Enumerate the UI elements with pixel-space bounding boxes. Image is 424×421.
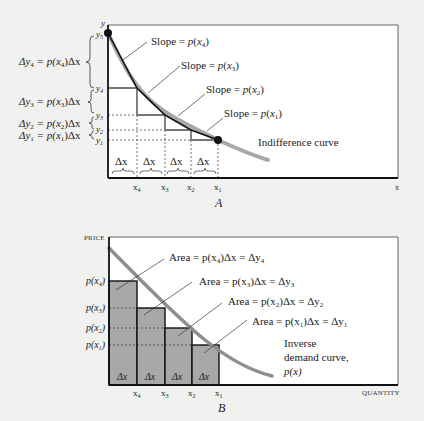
panel-a-caption: A: [214, 196, 223, 210]
panel-a-x-ticks: x4 x3 x2 x1: [133, 182, 222, 193]
slope-label-x4: Slope = p(x4): [151, 35, 209, 49]
x2-tick: x2: [187, 182, 195, 193]
bar-delta-x-2: Δx: [144, 371, 156, 382]
slope-label-x2: Slope = p(x2): [206, 83, 264, 97]
price-axis-label: PRICE: [84, 234, 105, 242]
delta-y3-label: Δy3 = p(x3)Δx: [18, 95, 81, 109]
svg-text:p(x): p(x): [283, 365, 302, 378]
panel-a-x-axis-label: x: [395, 183, 399, 192]
end-point: [214, 136, 222, 144]
delta-x-label-2: Δx: [143, 155, 156, 167]
bar-x4: [109, 281, 137, 385]
x1-tick: x1: [214, 182, 222, 193]
panel-a-left-braces: [86, 36, 94, 139]
bar-delta-x-3: Δx: [171, 371, 183, 382]
panel-b: Area = p(x4)Δx = Δy4 Area = p(x3)Δx = Δy…: [84, 234, 400, 415]
svg-text:demand curve,: demand curve,: [284, 351, 349, 363]
panel-b-caption: B: [218, 401, 226, 415]
delta-x-label-3: Δx: [170, 155, 183, 167]
price-tick-x2: p(x2): [85, 322, 106, 334]
slope-label-x1: Slope = p(x1): [224, 107, 282, 121]
delta-y1-label: Δy1 = p(x1)Δx: [18, 129, 81, 143]
slope-label-x3: Slope = p(x3): [181, 59, 239, 73]
price-tick-x4: p(x4): [85, 275, 106, 287]
b-x3-tick: x3: [161, 388, 169, 399]
svg-text:Inverse: Inverse: [284, 337, 316, 349]
y1-tick: y1: [95, 135, 103, 146]
b-x2-tick: x2: [188, 388, 196, 399]
b-x4-tick: x4: [133, 388, 141, 399]
price-tick-x3: p(x3): [85, 302, 106, 314]
x4-tick: x4: [133, 182, 141, 193]
panel-a-y-ticks: y5 y4 y3 y2 y1: [95, 29, 103, 146]
y2-tick: y2: [95, 124, 103, 135]
delta-y4-label: Δy4 = p(x4)Δx: [18, 55, 81, 69]
price-ticks: p(x4) p(x3) p(x2) p(x1): [85, 275, 106, 351]
delta-y-labels: Δy4 = p(x4)Δx Δy3 = p(x3)Δx Δy2 = p(x2)Δ…: [18, 55, 81, 143]
price-tick-x1: p(x1): [85, 339, 106, 351]
panel-a-y-axis-label: y: [100, 18, 105, 28]
indifference-curve-label: Indifference curve: [258, 136, 339, 148]
bar-delta-x-4: Δx: [198, 371, 210, 382]
delta-x-label-4: Δx: [197, 155, 210, 167]
quantity-axis-label: QUANTITY: [362, 389, 400, 397]
panel-b-x-ticks: x4 x3 x2 x1: [133, 388, 223, 399]
y5-tick: y5: [95, 29, 103, 40]
indifference-and-demand-figure: Slope = p(x4) Slope = p(x3) Slope = p(x2…: [0, 0, 424, 421]
bar-delta-x-1: Δx: [116, 371, 128, 382]
b-x1-tick: x1: [215, 388, 223, 399]
y3-tick: y3: [95, 110, 103, 121]
x3-tick: x3: [161, 182, 169, 193]
y4-tick: y4: [95, 83, 103, 94]
delta-x-label-1: Δx: [115, 155, 128, 167]
panel-a: Slope = p(x4) Slope = p(x3) Slope = p(x2…: [18, 18, 399, 210]
